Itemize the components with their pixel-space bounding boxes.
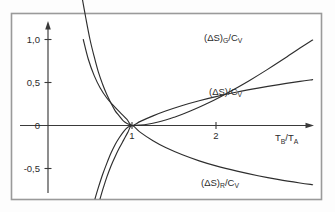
- label-t-s: S): [219, 86, 229, 97]
- label-t-subtail: V: [238, 91, 243, 98]
- label-t-tail: /C: [228, 86, 238, 97]
- label-g-s: S): [214, 32, 224, 43]
- label-r-s: S): [211, 177, 221, 188]
- label-curve-delta-s-total: (ΔS)/CV: [209, 86, 243, 98]
- label-g-tail: /C: [228, 32, 238, 43]
- label-r-tail: /C: [225, 177, 235, 188]
- chart-figure: 1,0 0,5 0 -0,5 1 2 (ΔS)G/CV (ΔS)/CV (ΔS)…: [0, 0, 335, 212]
- figure-frame: [12, 14, 322, 200]
- x-tick-label-2: 2: [213, 130, 218, 141]
- label-r-subtail: V: [234, 182, 239, 189]
- x-tick-label-1: 1: [129, 130, 134, 141]
- y-tick-label-3: 0: [35, 120, 40, 131]
- x-title-sub2: A: [294, 138, 299, 145]
- chart-svg: 1,0 0,5 0 -0,5 1 2 (ΔS)G/CV (ΔS)/CV (ΔS)…: [0, 0, 335, 212]
- y-tick-label-1: 1,0: [27, 34, 40, 45]
- y-tick-label-4: -0,5: [24, 163, 40, 174]
- y-tick-label-2: 0,5: [27, 77, 40, 88]
- label-g-subtail: V: [238, 37, 243, 44]
